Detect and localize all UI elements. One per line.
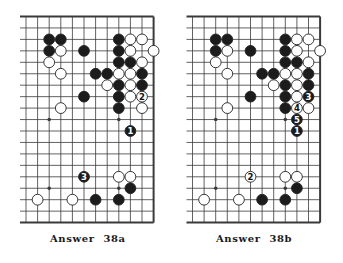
black-stone bbox=[113, 91, 124, 102]
go-board-38b: 34512 bbox=[187, 17, 326, 223]
go-diagrams: 213 34512 bbox=[0, 0, 343, 263]
white-stone bbox=[222, 45, 233, 56]
white-stone bbox=[44, 57, 55, 68]
move-number: 1 bbox=[294, 126, 300, 136]
move-number: 5 bbox=[294, 115, 300, 125]
white-stone bbox=[55, 45, 66, 56]
white-stone bbox=[292, 45, 303, 56]
move-number: 2 bbox=[139, 92, 145, 102]
black-stone bbox=[137, 80, 148, 91]
black-stone bbox=[210, 34, 221, 45]
black-stone bbox=[268, 68, 279, 79]
star-point bbox=[284, 118, 288, 122]
black-stone bbox=[210, 45, 221, 56]
white-stone bbox=[113, 68, 124, 79]
black-stone bbox=[113, 45, 124, 56]
star-point bbox=[284, 186, 288, 190]
black-stone bbox=[90, 194, 101, 205]
white-stone bbox=[137, 103, 148, 114]
black-stone bbox=[222, 34, 233, 45]
black-stone bbox=[280, 45, 291, 56]
white-stone bbox=[315, 45, 326, 56]
caption-number: 38a bbox=[104, 233, 126, 244]
move-number: 2 bbox=[248, 172, 254, 182]
white-stone bbox=[55, 103, 66, 114]
white-stone bbox=[137, 34, 148, 45]
white-stone bbox=[280, 68, 291, 79]
black-stone bbox=[113, 57, 124, 68]
black-stone-3: 3 bbox=[303, 91, 314, 102]
black-stone bbox=[280, 103, 291, 114]
black-stone bbox=[280, 91, 291, 102]
star-point bbox=[117, 118, 121, 122]
black-stone-3: 3 bbox=[79, 171, 90, 182]
star-point bbox=[214, 118, 218, 122]
white-stone-4: 4 bbox=[292, 103, 303, 114]
move-number: 3 bbox=[81, 172, 87, 182]
star-point bbox=[47, 186, 51, 190]
black-stone bbox=[303, 68, 314, 79]
white-stone bbox=[148, 45, 159, 56]
white-stone bbox=[199, 194, 210, 205]
black-stone bbox=[257, 194, 268, 205]
white-stone bbox=[125, 68, 136, 79]
black-stone bbox=[113, 34, 124, 45]
black-stone bbox=[125, 57, 136, 68]
white-stone bbox=[113, 171, 124, 182]
white-stone bbox=[222, 103, 233, 114]
white-stone bbox=[67, 194, 78, 205]
white-stone bbox=[292, 171, 303, 182]
white-stone bbox=[303, 103, 314, 114]
black-stone bbox=[280, 80, 291, 91]
white-stone bbox=[125, 91, 136, 102]
white-stone bbox=[125, 45, 136, 56]
black-stone bbox=[90, 68, 101, 79]
white-stone bbox=[32, 194, 43, 205]
white-stone bbox=[102, 80, 113, 91]
move-number: 1 bbox=[127, 126, 133, 136]
black-stone bbox=[79, 91, 90, 102]
white-stone bbox=[292, 34, 303, 45]
black-stone bbox=[44, 45, 55, 56]
black-stone bbox=[280, 34, 291, 45]
white-stone bbox=[125, 171, 136, 182]
white-stone bbox=[137, 57, 148, 68]
caption-word: Answer bbox=[50, 233, 95, 244]
black-stone bbox=[292, 57, 303, 68]
black-stone-1: 1 bbox=[125, 126, 136, 137]
black-stone bbox=[125, 183, 136, 194]
white-stone bbox=[210, 57, 221, 68]
white-stone bbox=[222, 68, 233, 79]
white-stone bbox=[292, 80, 303, 91]
go-board-38a: 213 bbox=[20, 17, 159, 223]
star-point bbox=[214, 186, 218, 190]
white-stone bbox=[125, 34, 136, 45]
black-stone bbox=[113, 80, 124, 91]
white-stone bbox=[292, 68, 303, 79]
black-stone bbox=[257, 68, 268, 79]
black-stone bbox=[102, 68, 113, 79]
caption-answer-38a: Answer38a bbox=[50, 233, 126, 244]
move-number: 3 bbox=[306, 92, 312, 102]
white-stone bbox=[268, 80, 279, 91]
black-stone bbox=[113, 194, 124, 205]
black-stone bbox=[44, 34, 55, 45]
star-point bbox=[47, 118, 51, 122]
black-stone bbox=[303, 80, 314, 91]
white-stone bbox=[292, 91, 303, 102]
black-stone-1: 1 bbox=[292, 126, 303, 137]
white-stone bbox=[303, 57, 314, 68]
white-stone bbox=[280, 171, 291, 182]
white-stone bbox=[125, 80, 136, 91]
black-stone bbox=[280, 194, 291, 205]
caption-answer-38b: Answer38b bbox=[216, 233, 292, 244]
caption-number: 38b bbox=[270, 233, 293, 244]
black-stone bbox=[245, 45, 256, 56]
black-stone bbox=[280, 57, 291, 68]
black-stone bbox=[137, 68, 148, 79]
black-stone-5: 5 bbox=[292, 114, 303, 125]
caption-word: Answer bbox=[216, 233, 261, 244]
black-stone bbox=[245, 91, 256, 102]
black-stone bbox=[55, 34, 66, 45]
white-stone-2: 2 bbox=[137, 91, 148, 102]
